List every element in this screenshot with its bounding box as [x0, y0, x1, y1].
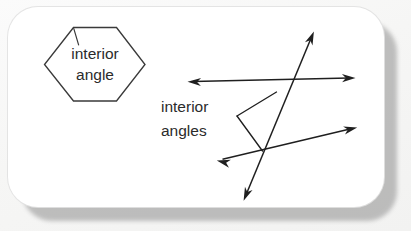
figure-root: interior angle [0, 0, 411, 231]
white-card-panel [8, 7, 384, 207]
